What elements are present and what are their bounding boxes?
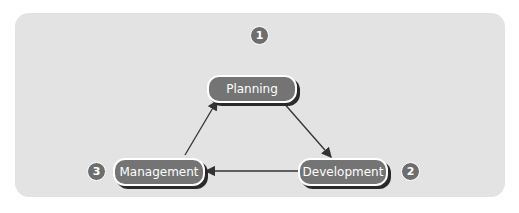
node-development: Development	[298, 158, 388, 186]
arrow-planning-to-development	[282, 101, 331, 157]
step-number-3: 3	[87, 162, 106, 181]
arrow-management-to-planning	[185, 101, 217, 155]
node-management: Management	[113, 158, 205, 186]
node-planning: Planning	[207, 75, 297, 103]
step-number-1: 1	[250, 26, 269, 45]
step-number-2: 2	[401, 162, 420, 181]
